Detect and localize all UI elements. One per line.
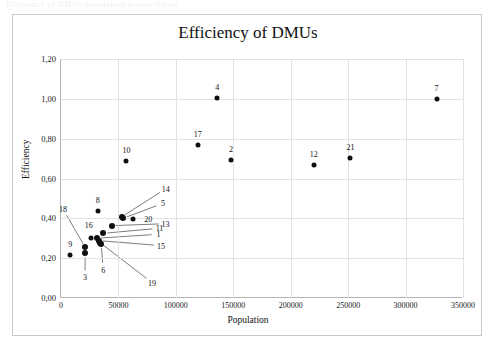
data-point-label: 8: [96, 196, 100, 205]
data-point[interactable]: [311, 162, 316, 167]
y-axis-tick: 1,00: [41, 94, 56, 104]
data-point-label: 20: [144, 214, 152, 223]
x-axis-tick: 0: [59, 301, 63, 310]
gridline-vertical: [406, 59, 407, 298]
data-point-label: 15: [157, 241, 165, 250]
y-axis-tick: 0,60: [41, 174, 56, 184]
data-point[interactable]: [100, 230, 106, 236]
gridline-horizontal: [61, 59, 463, 60]
x-axis-tick: 100000: [164, 301, 188, 310]
scan-header-text: Efficiency of DMUs population scatter fi…: [0, 0, 496, 12]
chart-title: Efficiency of DMUs: [13, 23, 483, 43]
gridline-vertical: [118, 59, 119, 298]
data-point-label: 10: [122, 145, 130, 154]
data-point[interactable]: [95, 209, 100, 214]
data-point-label: 7: [435, 83, 439, 92]
data-point-label: 18: [59, 205, 67, 214]
plot-area: 0,000,200,400,600,801,001,20050000100000…: [60, 59, 462, 298]
gridline-horizontal: [61, 99, 463, 100]
gridline-vertical: [233, 59, 234, 298]
data-point[interactable]: [131, 216, 136, 221]
data-point-label: 13: [162, 219, 170, 228]
data-point-label: 6: [101, 265, 105, 274]
data-point[interactable]: [109, 223, 115, 229]
data-point[interactable]: [348, 155, 353, 160]
data-point[interactable]: [195, 142, 200, 147]
gridline-vertical: [348, 59, 349, 298]
data-point[interactable]: [68, 253, 73, 258]
data-point[interactable]: [82, 250, 88, 256]
y-axis-tick: 0,20: [41, 253, 56, 263]
data-point[interactable]: [97, 240, 103, 246]
x-axis-label: Population: [13, 315, 483, 325]
data-point[interactable]: [119, 214, 125, 220]
x-axis-tick: 200000: [279, 301, 303, 310]
data-point-label: 3: [83, 273, 87, 282]
gridline-horizontal: [61, 258, 463, 259]
gridline-horizontal: [61, 179, 463, 180]
data-point-label: 4: [215, 82, 219, 91]
data-point[interactable]: [434, 96, 439, 101]
x-axis-tick: 50000: [108, 301, 128, 310]
gridline-vertical: [463, 59, 464, 298]
x-axis-tick: 350000: [451, 301, 475, 310]
y-axis-tick: 0,00: [41, 293, 56, 303]
data-point[interactable]: [88, 236, 93, 241]
x-axis-tick: 150000: [221, 301, 245, 310]
x-axis-tick: 300000: [394, 301, 418, 310]
data-point-label: 2: [229, 144, 233, 153]
data-point[interactable]: [215, 95, 220, 100]
y-axis-tick: 0,40: [41, 213, 56, 223]
data-point[interactable]: [124, 158, 129, 163]
data-point[interactable]: [82, 244, 88, 250]
data-point-label: 21: [346, 142, 354, 151]
data-point-label: 17: [194, 129, 202, 138]
data-point-label: 12: [310, 149, 318, 158]
x-axis-tick: 250000: [336, 301, 360, 310]
y-axis-tick: 0,80: [41, 134, 56, 144]
data-point-label: 19: [148, 278, 156, 287]
gridline-vertical: [291, 59, 292, 298]
chart-frame: Efficiency of DMUs Efficiency Population…: [12, 14, 482, 336]
data-point[interactable]: [228, 157, 233, 162]
data-point-label: 16: [85, 221, 93, 230]
y-axis-tick: 1,20: [41, 54, 56, 64]
data-point-label: 5: [161, 199, 165, 208]
data-point-label: 9: [68, 240, 72, 249]
y-axis-label: Efficiency: [21, 140, 31, 179]
gridline-vertical: [176, 59, 177, 298]
data-point-label: 14: [162, 184, 170, 193]
gridline-horizontal: [61, 139, 463, 140]
